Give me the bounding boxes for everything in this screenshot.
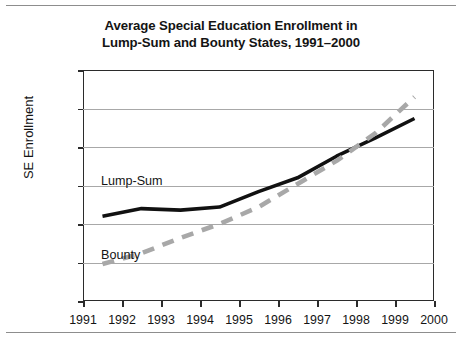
chart-figure: Average Special Education Enrollment in …	[0, 0, 462, 342]
chart-title: Average Special Education Enrollment in …	[0, 17, 462, 51]
x-tick-mark	[122, 301, 124, 307]
chart-title-line-2: Lump-Sum and Bounty States, 1991–2000	[0, 34, 462, 51]
x-tick-mark	[395, 301, 397, 307]
x-tick-mark	[239, 301, 241, 307]
x-tick-mark	[83, 301, 85, 307]
x-tick-mark	[317, 301, 319, 307]
x-tick-mark	[161, 301, 163, 307]
series-label-lump-sum: Lump-Sum	[101, 174, 163, 188]
chart-title-line-1: Average Special Education Enrollment in	[105, 18, 358, 33]
x-tick-mark	[434, 301, 436, 307]
plot-area: 10.0%10.5%11.0%11.5%12.0%12.5%13.0% 1991…	[83, 70, 434, 301]
x-tick-mark	[200, 301, 202, 307]
series-label-bounty: Bounty	[101, 248, 140, 262]
x-tick-label: 2000	[408, 313, 460, 327]
x-tick-mark	[278, 301, 280, 307]
series-line-lump-sum	[103, 119, 415, 217]
top-divider-rule	[6, 5, 456, 6]
x-tick-mark	[356, 301, 358, 307]
bottom-divider-rule	[6, 332, 456, 333]
y-axis-label: SE Enrollment	[21, 48, 36, 228]
